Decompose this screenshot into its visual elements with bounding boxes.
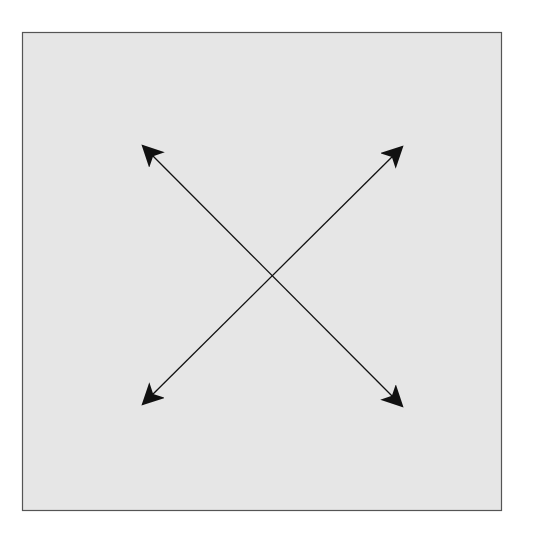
diagram-box [23,33,502,511]
diagram-canvas [0,0,542,537]
